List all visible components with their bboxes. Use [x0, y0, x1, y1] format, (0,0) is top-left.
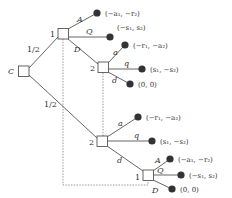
payoff-bottom-D: (0, 0) — [180, 186, 199, 194]
payoff-upper-d: (0, 0) — [138, 81, 157, 89]
action-upper-a: a — [113, 48, 118, 57]
leaf-upper-d — [126, 80, 133, 87]
action-lower-q: q — [134, 131, 139, 140]
chance-node — [19, 66, 30, 77]
player2-upper-node — [98, 62, 109, 73]
player1-bottom-node — [143, 170, 154, 181]
leaf-upper-a — [121, 41, 128, 48]
payoff-top-A: (−a₁, −r₂) — [105, 10, 140, 18]
leaf-bottom-Q — [177, 171, 184, 178]
leaf-lower-a — [134, 113, 141, 120]
payoff-bottom-Q: (−s₁, s₂) — [189, 172, 218, 180]
player2-lower-label: 2 — [89, 138, 94, 147]
chance-label: C — [8, 67, 14, 76]
action-bottom-Q: Q — [157, 166, 164, 175]
leaf-top-Q — [106, 33, 113, 40]
action-bottom-D: D — [151, 186, 159, 195]
leaf-bottom-A — [166, 155, 173, 162]
action-top-Q: Q — [86, 27, 93, 36]
edge-lower-d — [107, 146, 143, 171]
leaf-upper-q — [138, 65, 145, 72]
action-upper-d: d — [112, 76, 117, 85]
edge-top-D — [68, 39, 98, 64]
player2-upper-label: 2 — [90, 64, 95, 73]
player1-top-node — [58, 29, 69, 40]
leaf-bottom-D — [168, 185, 175, 192]
leaf-lower-q — [148, 137, 155, 144]
action-upper-q: q — [124, 59, 129, 68]
payoff-upper-a: (−r₁, −a₂) — [133, 42, 168, 50]
terminal-nodes — [93, 9, 184, 192]
player2-lower-node — [97, 136, 108, 147]
leaf-top-A — [93, 9, 100, 16]
action-top-D: D — [73, 45, 81, 54]
player1-bottom-label: 1 — [135, 173, 140, 182]
payoff-top-Q: (−s₁, s₂) — [117, 24, 146, 32]
payoff-bottom-A: (−a₁, −r₂) — [178, 156, 213, 164]
payoff-lower-a: (−r₁, −a₂) — [146, 114, 181, 122]
action-bottom-A: A — [154, 156, 161, 165]
game-tree-diagram: C 1 2 2 1 1/2 1/2 A Q D a q d a q d A Q … — [0, 0, 232, 198]
payoff-lower-q: (s₁, −s₂) — [160, 138, 189, 146]
information-sets — [63, 39, 148, 185]
action-top-A: A — [76, 15, 83, 24]
player1-top-label: 1 — [50, 30, 55, 39]
chance-prob-up: 1/2 — [27, 45, 40, 54]
player1-information-set — [63, 39, 148, 185]
chance-prob-down: 1/2 — [44, 100, 57, 109]
action-lower-d: d — [117, 156, 122, 165]
payoff-upper-q: (s₁, −s₂) — [150, 66, 179, 74]
action-lower-a: a — [118, 119, 123, 128]
